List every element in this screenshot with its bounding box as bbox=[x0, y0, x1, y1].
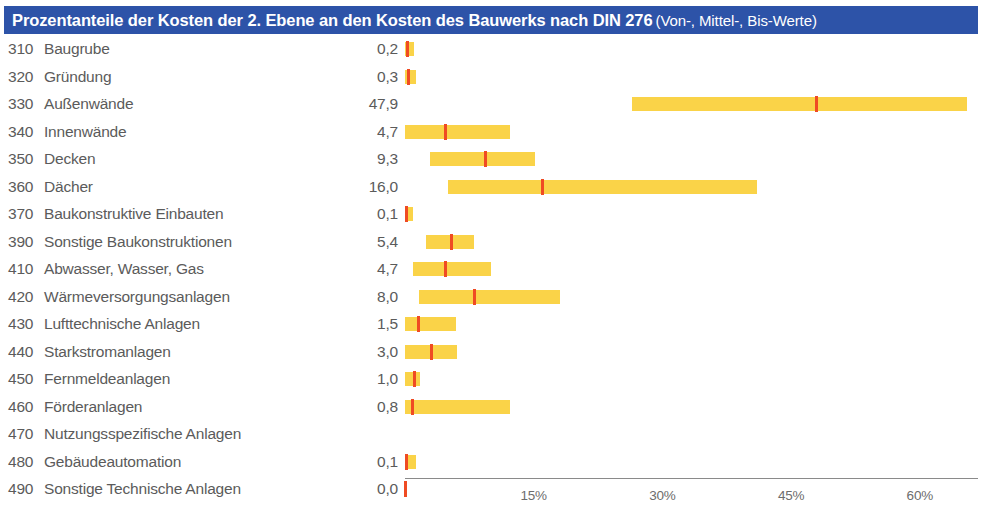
row-label: Abwasser, Wasser, Gas bbox=[44, 258, 204, 280]
row-value: 1,0 bbox=[300, 368, 398, 390]
row-code: 460 bbox=[8, 396, 42, 418]
row-value: 0,2 bbox=[300, 38, 398, 60]
row-value: 4,7 bbox=[300, 258, 398, 280]
mittel-marker bbox=[406, 41, 409, 57]
row-code: 390 bbox=[8, 231, 42, 253]
row-value: 47,9 bbox=[300, 93, 398, 115]
row-label: Nutzungsspezifische Anlagen bbox=[44, 423, 241, 445]
chart-title-banner: Prozentanteile der Kosten der 2. Ebene a… bbox=[4, 6, 978, 34]
mittel-marker bbox=[407, 69, 410, 85]
row-code: 420 bbox=[8, 286, 42, 308]
chart-row: 480Gebäudeautomation0,1 bbox=[0, 451, 983, 479]
row-label: Baukonstruktive Einbauten bbox=[44, 203, 223, 225]
mittel-marker bbox=[405, 454, 408, 470]
row-code: 360 bbox=[8, 176, 42, 198]
row-value: 16,0 bbox=[300, 176, 398, 198]
row-code: 430 bbox=[8, 313, 42, 335]
chart-x-axis: 15%30%45%60% bbox=[0, 478, 983, 515]
mittel-marker bbox=[473, 289, 476, 305]
x-axis-tick-label: 15% bbox=[520, 488, 546, 503]
chart-row: 390Sonstige Baukonstruktionen5,4 bbox=[0, 231, 983, 259]
row-value: 3,0 bbox=[300, 341, 398, 363]
range-bar bbox=[632, 97, 967, 111]
row-code: 450 bbox=[8, 368, 42, 390]
mittel-marker bbox=[413, 371, 416, 387]
row-value: 4,7 bbox=[300, 121, 398, 143]
row-label: Wärmeversorgungsanlagen bbox=[44, 286, 230, 308]
mittel-marker bbox=[411, 399, 414, 415]
chart-title-main: Prozentanteile der Kosten der 2. Ebene a… bbox=[12, 11, 652, 29]
row-label: Gebäudeautomation bbox=[44, 451, 181, 473]
chart-row: 370Baukonstruktive Einbauten0,1 bbox=[0, 203, 983, 231]
chart-row: 350Decken9,3 bbox=[0, 148, 983, 176]
mittel-marker bbox=[444, 261, 447, 277]
row-label: Baugrube bbox=[44, 38, 110, 60]
row-code: 350 bbox=[8, 148, 42, 170]
x-axis-tick-label: 45% bbox=[778, 488, 804, 503]
mittel-marker bbox=[417, 316, 420, 332]
row-code: 410 bbox=[8, 258, 42, 280]
chart-row: 460Förderanlagen0,8 bbox=[0, 396, 983, 424]
mittel-marker bbox=[815, 96, 818, 112]
row-value: 0,8 bbox=[300, 396, 398, 418]
row-value: 1,5 bbox=[300, 313, 398, 335]
chart-row: 470Nutzungsspezifische Anlagen bbox=[0, 423, 983, 451]
chart-title-text: Prozentanteile der Kosten der 2. Ebene a… bbox=[12, 12, 817, 29]
x-axis-line bbox=[405, 478, 978, 479]
row-code: 310 bbox=[8, 38, 42, 60]
mittel-marker bbox=[450, 234, 453, 250]
chart-row: 420Wärmeversorgungsanlagen8,0 bbox=[0, 286, 983, 314]
row-label: Förderanlagen bbox=[44, 396, 142, 418]
chart-row: 430Lufttechnische Anlagen1,5 bbox=[0, 313, 983, 341]
chart-row: 440Starkstromanlagen3,0 bbox=[0, 341, 983, 369]
row-value: 5,4 bbox=[300, 231, 398, 253]
row-label: Gründung bbox=[44, 66, 111, 88]
x-axis-tick-label: 30% bbox=[649, 488, 675, 503]
row-code: 370 bbox=[8, 203, 42, 225]
mittel-marker bbox=[444, 124, 447, 140]
range-bar bbox=[430, 152, 536, 166]
row-value: 0,1 bbox=[300, 203, 398, 225]
mittel-marker bbox=[541, 179, 544, 195]
row-value: 8,0 bbox=[300, 286, 398, 308]
chart-row: 360Dächer16,0 bbox=[0, 176, 983, 204]
chart-row: 340Innenwände4,7 bbox=[0, 121, 983, 149]
mittel-marker bbox=[430, 344, 433, 360]
row-code: 320 bbox=[8, 66, 42, 88]
row-value: 0,3 bbox=[300, 66, 398, 88]
row-label: Dächer bbox=[44, 176, 93, 198]
chart-row: 330Außenwände47,9 bbox=[0, 93, 983, 121]
row-value: 9,3 bbox=[300, 148, 398, 170]
row-code: 440 bbox=[8, 341, 42, 363]
row-label: Außenwände bbox=[44, 93, 133, 115]
row-code: 480 bbox=[8, 451, 42, 473]
range-bar bbox=[405, 317, 456, 331]
mittel-marker bbox=[484, 151, 487, 167]
range-bar bbox=[405, 125, 510, 139]
chart-title-subtitle: (Von-, Mittel-, Bis-Werte) bbox=[655, 12, 816, 29]
range-bar bbox=[405, 400, 510, 414]
x-axis-tick-label: 60% bbox=[907, 488, 933, 503]
chart-row: 310Baugrube0,2 bbox=[0, 38, 983, 66]
row-value: 0,1 bbox=[300, 451, 398, 473]
row-code: 340 bbox=[8, 121, 42, 143]
range-bar bbox=[413, 262, 491, 276]
range-bar bbox=[419, 290, 561, 304]
row-label: Fernmeldeanlagen bbox=[44, 368, 170, 390]
chart-row: 450Fernmeldeanlagen1,0 bbox=[0, 368, 983, 396]
row-code: 470 bbox=[8, 423, 42, 445]
chart-row: 320Gründung0,3 bbox=[0, 66, 983, 94]
chart-plot-area: 310Baugrube0,2320Gründung0,3330Außenwänd… bbox=[0, 38, 983, 478]
mittel-marker bbox=[405, 206, 408, 222]
row-label: Sonstige Baukonstruktionen bbox=[44, 231, 232, 253]
chart-row: 410Abwasser, Wasser, Gas4,7 bbox=[0, 258, 983, 286]
row-label: Decken bbox=[44, 148, 95, 170]
row-code: 330 bbox=[8, 93, 42, 115]
range-bar bbox=[448, 180, 757, 194]
row-label: Starkstromanlagen bbox=[44, 341, 171, 363]
row-label: Lufttechnische Anlagen bbox=[44, 313, 200, 335]
row-label: Innenwände bbox=[44, 121, 126, 143]
